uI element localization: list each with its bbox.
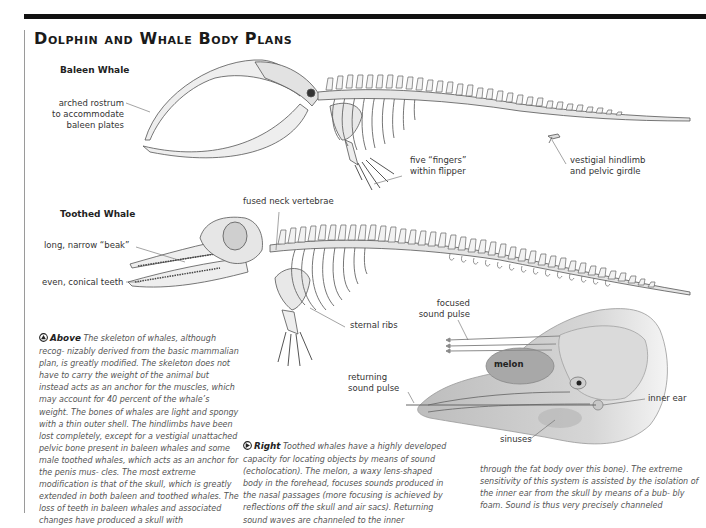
- caption-above-text: The skeleton of whales, although recog- …: [39, 334, 239, 525]
- label-returning-sound-pulse: returning sound pulse: [348, 372, 399, 394]
- label-sternal-ribs: sternal ribs: [350, 320, 398, 331]
- label-arched-rostrum: arched rostrum to accommodate baleen pla…: [52, 98, 124, 131]
- caption-above-lead: Above: [50, 333, 81, 343]
- caption-above: Above The skeleton of whales, although r…: [39, 332, 239, 528]
- label-conical-teeth: even, conical teeth: [42, 277, 123, 288]
- label-vestigial-hindlimb: vestigial hindlimb and pelvic girdle: [570, 155, 645, 177]
- caption-right: Right Toothed whales have a highly devel…: [243, 440, 453, 527]
- label-five-fingers: five “fingers” within flipper: [410, 155, 466, 177]
- dolphin-head-diagram: [406, 309, 667, 444]
- caption-right-text: Toothed whales have a highly developed c…: [243, 442, 446, 525]
- arrow-up-icon: [39, 333, 48, 346]
- caption-right-lead: Right: [254, 441, 281, 451]
- baleen-whale-heading: Baleen Whale: [60, 65, 129, 75]
- arrow-right-icon: [243, 441, 252, 454]
- caption-continued: through the fat body over this bone). Th…: [480, 464, 702, 512]
- toothed-whale-heading: Toothed Whale: [60, 209, 135, 219]
- label-melon: melon: [494, 359, 523, 370]
- label-fused-neck-vertebrae: fused neck vertebrae: [243, 196, 334, 207]
- label-long-narrow-beak: long, narrow “beak”: [44, 240, 129, 251]
- label-inner-ear: inner ear: [648, 393, 687, 404]
- label-sinuses: sinuses: [500, 434, 532, 445]
- label-focused-sound-pulse: focused sound pulse: [419, 298, 470, 320]
